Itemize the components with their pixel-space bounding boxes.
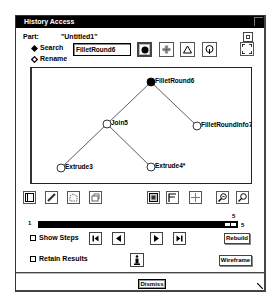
diamond-empty-icon <box>31 56 38 63</box>
history-access-window: History Access Part: "Untitled1" Search … <box>15 15 266 292</box>
fullscreen-button[interactable] <box>240 42 254 56</box>
shape-edit-button[interactable] <box>67 191 80 204</box>
shape-edit-icon <box>69 193 78 202</box>
wireframe-button[interactable]: Wireframe <box>219 255 252 266</box>
zoom-in-icon <box>218 193 227 202</box>
slider-current-label: 5 <box>232 213 235 219</box>
resize-grip-icon[interactable] <box>257 283 263 289</box>
slider-thumb[interactable] <box>224 222 237 227</box>
select-frame-button[interactable] <box>23 191 36 204</box>
info-button[interactable] <box>130 253 144 267</box>
triangle-icon <box>183 45 192 54</box>
tree-node[interactable] <box>57 164 65 172</box>
crosshair-icon <box>191 193 200 202</box>
rebuild-button[interactable]: Rebuild <box>224 233 250 244</box>
checkbox-box <box>30 256 36 262</box>
maximize-icon[interactable] <box>243 32 253 42</box>
search-input[interactable]: FilletRound6 <box>73 43 131 56</box>
circle-pin-icon <box>205 45 214 54</box>
tree-node-label[interactable]: Extrude3 <box>65 163 93 170</box>
radio-rename-label: Rename <box>40 55 67 62</box>
title-bar[interactable]: History Access <box>16 16 264 28</box>
expand-corners-icon <box>242 44 252 54</box>
first-step-button[interactable] <box>89 232 102 245</box>
tree-node[interactable] <box>103 120 111 128</box>
show-steps-label: Show Steps <box>39 234 79 241</box>
tree-edge <box>61 124 107 168</box>
tree-node[interactable] <box>147 78 155 86</box>
circle-pin-button[interactable] <box>202 42 217 57</box>
copy-icon <box>91 193 100 202</box>
crosshair-button[interactable] <box>189 191 202 204</box>
next-step-button[interactable] <box>150 232 163 245</box>
checkbox-box <box>30 235 36 241</box>
zoom-out-icon <box>238 193 247 202</box>
flower-icon <box>162 45 171 54</box>
tree-edge <box>151 82 197 126</box>
last-step-icon <box>176 235 183 242</box>
zoom-out-button[interactable] <box>236 191 249 204</box>
dismiss-button[interactable]: Dismiss <box>138 279 166 289</box>
tree-node[interactable] <box>193 122 201 130</box>
zoom-in-button[interactable] <box>216 191 229 204</box>
slider-min-label: 1 <box>28 220 31 226</box>
copy-button[interactable] <box>89 191 102 204</box>
prev-step-button[interactable] <box>112 232 125 245</box>
step-slider[interactable] <box>38 221 238 228</box>
first-step-icon <box>92 235 99 242</box>
tree-edge <box>107 82 151 124</box>
pencil-icon <box>47 193 56 202</box>
tree-node-label[interactable]: Join5 <box>111 119 128 126</box>
retain-results-label: Retain Results <box>39 255 88 262</box>
prev-step-icon <box>115 235 122 242</box>
flag-layout-icon <box>168 193 177 202</box>
part-value: "Untitled1" <box>61 33 98 40</box>
tree-node-label[interactable]: FilletRoundInfo7 <box>201 121 252 128</box>
diamond-filled-icon <box>31 45 38 52</box>
window-menu-icon[interactable] <box>254 17 263 26</box>
slider-max-label: 5 <box>241 222 244 228</box>
pencil-button[interactable] <box>45 191 58 204</box>
filled-circle-icon <box>141 46 149 54</box>
last-step-button[interactable] <box>173 232 186 245</box>
tree-edge <box>107 124 151 167</box>
history-tree-canvas[interactable]: FilletRound6Join5FilletRoundInfo7Extrude… <box>30 67 252 184</box>
fit-view-icon <box>149 193 158 202</box>
divider <box>16 272 264 274</box>
window-title: History Access <box>24 18 74 25</box>
flag-layout-button[interactable] <box>166 191 179 204</box>
fit-view-button[interactable] <box>147 191 160 204</box>
tree-node-label[interactable]: FilletRound6 <box>155 77 194 84</box>
info-icon <box>133 255 141 265</box>
tree-node-label[interactable]: Extrude4* <box>155 162 185 169</box>
tree-node[interactable] <box>147 163 155 171</box>
flower-button[interactable] <box>159 42 174 57</box>
radio-search-label: Search <box>40 44 63 51</box>
select-frame-icon <box>25 193 34 202</box>
filled-circle-button[interactable] <box>137 42 152 57</box>
part-label: Part: <box>23 33 39 40</box>
next-step-icon <box>153 235 160 242</box>
triangle-button[interactable] <box>180 42 195 57</box>
